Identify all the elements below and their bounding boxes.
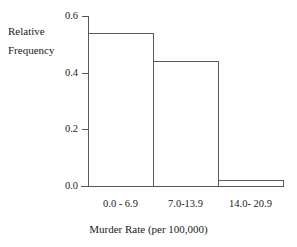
y-axis-tick (82, 186, 88, 187)
y-axis-label-line2: Frequency (8, 41, 82, 60)
histogram-bar (153, 61, 219, 186)
y-axis-tick-label: 0.4 (52, 68, 78, 79)
histogram-figure: Relative Frequency 0.00.20.40.6 0.0 - 6.… (0, 0, 297, 247)
y-axis-label-line1: Relative (8, 22, 82, 41)
histogram-bar (88, 33, 154, 186)
y-axis-tick (82, 16, 88, 17)
x-axis-tick-label: 0.0 - 6.9 (88, 197, 153, 210)
y-axis-label: Relative Frequency (8, 22, 82, 60)
y-axis-tick-label: 0.6 (52, 11, 78, 22)
y-axis-tick-label: 0.2 (52, 124, 78, 135)
x-axis-tick-label: 14.0- 20.9 (218, 197, 283, 210)
x-axis-line (81, 186, 284, 187)
x-axis-tick-label: 7.0-13.9 (153, 197, 218, 210)
x-axis-title: Murder Rate (per 100,000) (0, 222, 297, 236)
histogram-bar (218, 180, 284, 186)
y-axis-tick-label: 0.0 (52, 181, 78, 192)
